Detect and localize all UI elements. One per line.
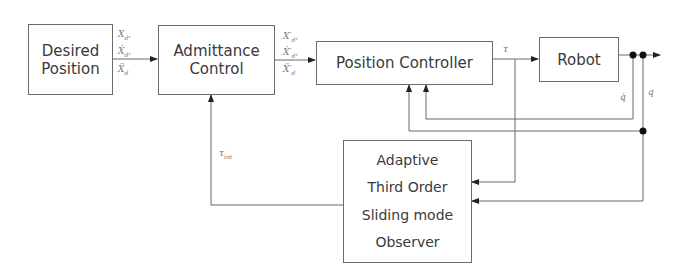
signal-tau: τ	[503, 44, 508, 54]
signal-q: q	[648, 87, 654, 97]
block-label: Control	[189, 60, 243, 78]
block-label: Sliding mode	[362, 202, 453, 229]
signal-xd: Xd,	[118, 29, 131, 41]
block-label: Admittance	[173, 42, 259, 60]
signal-q-dot: q̇	[620, 92, 626, 102]
admittance-control-block: Admittance Control	[158, 25, 275, 95]
observer-block: Adaptive Third Order Sliding mode Observ…	[343, 140, 472, 263]
position-controller-block: Position Controller	[316, 41, 493, 85]
signal-xd-prime-dot: Ẋ′d,	[283, 47, 298, 59]
block-label: Third Order	[368, 174, 448, 201]
robot-block: Robot	[539, 37, 619, 82]
block-diagram: Desired Position Admittance Control Posi…	[0, 0, 687, 274]
signal-xd-prime: X′d,	[283, 31, 298, 43]
block-label: Desired	[42, 42, 99, 60]
signal-xd-prime-ddot: Ẍ′d	[283, 64, 295, 76]
desired-position-block: Desired Position	[28, 24, 113, 95]
junction-nodes	[630, 52, 647, 135]
block-label: Observer	[375, 229, 439, 256]
block-label: Position	[41, 60, 99, 78]
block-label: Adaptive	[377, 147, 439, 174]
block-label: Position Controller	[336, 54, 473, 72]
block-label: Robot	[557, 51, 601, 69]
signal-xd-ddot: Ẍd	[118, 64, 128, 76]
signal-xd-dot: Ẋd,	[118, 46, 131, 58]
signal-tau-int: τint	[219, 148, 232, 160]
